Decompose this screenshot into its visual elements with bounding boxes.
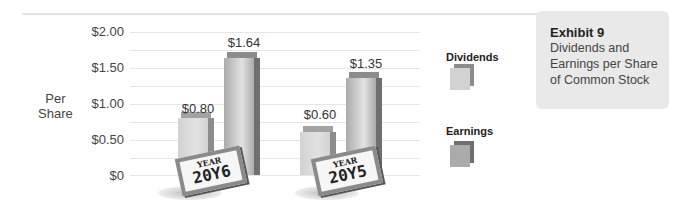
y-tick: $1.00 (60, 96, 124, 111)
legend-label-dividends: Dividends (446, 51, 499, 63)
exhibit-panel: Exhibit 9 Dividends and Earnings per Sha… (536, 11, 669, 109)
legend-swatch-earnings (450, 145, 470, 167)
exhibit-title: Exhibit 9 (550, 25, 604, 40)
bar-value-label: $0.60 (290, 107, 350, 122)
y-tick: $2.00 (60, 24, 124, 39)
y-tick: $1.50 (60, 60, 124, 75)
bar-value-label: $1.64 (214, 35, 274, 50)
bar-value-label: $0.80 (168, 101, 228, 116)
gridline (130, 32, 420, 33)
y-tick: $0 (60, 168, 124, 183)
top-rule (22, 13, 582, 15)
bar-value-label: $1.35 (336, 56, 396, 71)
legend-label-earnings: Earnings (446, 125, 493, 137)
y-tick: $0.50 (60, 132, 124, 147)
gridline (130, 50, 420, 51)
legend-swatch-dividends (450, 68, 470, 90)
exhibit-description: Dividends and Earnings per Share of Comm… (550, 40, 668, 88)
